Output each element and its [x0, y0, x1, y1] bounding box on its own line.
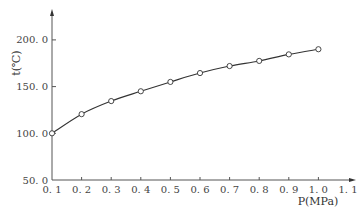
data-point	[286, 52, 291, 57]
data-point	[79, 112, 84, 117]
x-tick-label: 0. 6	[190, 184, 209, 195]
chart: 0. 10. 20. 30. 40. 50. 60. 70. 80. 91. 0…	[0, 0, 363, 221]
y-tick-label: 150. 0	[16, 81, 48, 92]
x-tick-label: 0. 5	[161, 184, 180, 195]
series-group	[49, 47, 321, 136]
data-point	[227, 63, 232, 68]
x-tick-label: 0. 3	[102, 184, 121, 195]
x-tick-label: 0. 7	[220, 184, 239, 195]
x-tick-label: 1. 0	[309, 184, 328, 195]
x-tick-label: 0. 9	[279, 184, 298, 195]
x-tick-label: 0. 4	[131, 184, 150, 195]
x-axis-arrow	[349, 178, 356, 182]
y-tick-label: 200. 0	[16, 34, 48, 45]
y-axis-arrow	[50, 9, 54, 16]
data-point	[138, 89, 143, 94]
y-tick-label: 50. 0	[23, 175, 48, 186]
x-tick-label: 0. 2	[72, 184, 91, 195]
data-point	[197, 70, 202, 75]
x-tick-label: 1. 1	[338, 184, 357, 195]
axes	[50, 9, 356, 182]
x-tick-label: 0. 1	[42, 184, 61, 195]
data-point	[316, 47, 321, 52]
y-tick-label: 100. 0	[16, 128, 48, 139]
data-point	[168, 79, 173, 84]
data-point	[257, 58, 262, 63]
data-point	[109, 98, 114, 103]
data-point	[49, 131, 54, 136]
y-axis-title: t(℃)	[10, 50, 23, 75]
series-line	[52, 49, 318, 133]
x-tick-label: 0. 8	[250, 184, 269, 195]
x-axis-title: P(MPa)	[298, 195, 339, 208]
